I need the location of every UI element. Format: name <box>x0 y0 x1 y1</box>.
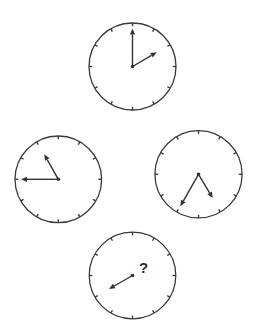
clock-center-pivot <box>197 173 201 177</box>
clock-center-pivot <box>131 65 135 69</box>
clock-right <box>155 131 242 218</box>
question-mark: ? <box>139 260 148 275</box>
clock-bottom <box>89 232 176 319</box>
clock-puzzle-diagram <box>0 0 264 330</box>
clock-center-pivot <box>57 178 61 182</box>
clock-center-pivot <box>131 274 135 278</box>
clock-left <box>15 136 102 223</box>
clock-top <box>89 23 176 110</box>
